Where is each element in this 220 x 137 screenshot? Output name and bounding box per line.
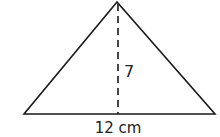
triangle-diagram: 7 12 cm: [0, 0, 220, 137]
triangle-outline: [24, 2, 215, 114]
base-label: 12 cm: [95, 119, 142, 137]
height-label: 7: [124, 62, 134, 81]
